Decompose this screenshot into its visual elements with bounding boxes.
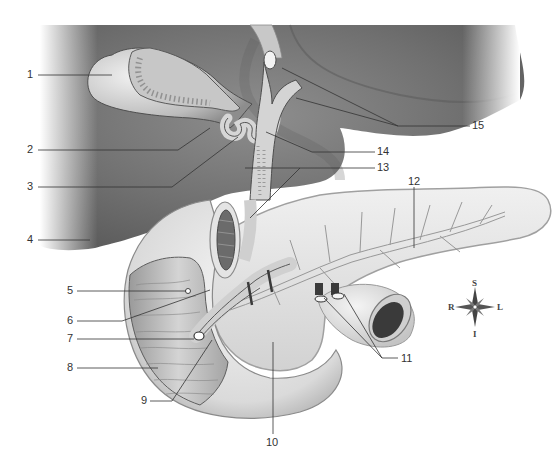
label-4: 4 — [27, 234, 33, 245]
anatomy-illustration — [0, 0, 560, 470]
label-14: 14 — [377, 146, 389, 157]
label-13: 13 — [377, 162, 389, 173]
label-15: 15 — [472, 120, 484, 131]
compass-inferior-label: I — [473, 330, 477, 339]
compass-left-label: L — [497, 303, 503, 312]
label-11: 11 — [401, 353, 412, 364]
label-2: 2 — [27, 144, 33, 155]
label-9: 9 — [141, 395, 147, 406]
label-6: 6 — [67, 315, 73, 326]
label-8: 8 — [67, 362, 73, 373]
mesenteric-vessel — [332, 293, 344, 299]
compass-right-label: R — [448, 303, 455, 312]
compass-superior-label: S — [472, 279, 477, 288]
label-10: 10 — [266, 437, 278, 448]
hepatic-duct-opening — [264, 51, 276, 69]
minor-papilla — [186, 289, 191, 294]
jejunum — [315, 283, 420, 350]
label-5: 5 — [67, 285, 73, 296]
label-12: 12 — [408, 176, 420, 187]
ampulla — [194, 332, 204, 340]
compass-rose-icon — [455, 287, 495, 327]
label-1: 1 — [27, 69, 33, 80]
label-7: 7 — [67, 333, 73, 344]
label-3: 3 — [27, 181, 33, 192]
